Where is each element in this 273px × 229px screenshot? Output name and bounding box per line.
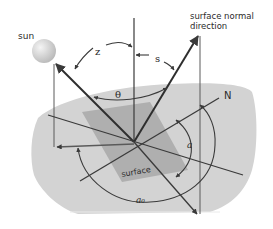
normal-label-line1: surface normal [190,11,254,21]
zenith-angle-arc [75,48,93,69]
normal-label-line2: direction [190,21,227,31]
solar-geometry-diagram: sun surface normal direction z s θ N a a… [0,0,273,229]
sun-icon [32,39,56,63]
zenith-angle-arc-right [106,43,132,47]
zenith-angle-label: z [95,46,100,57]
north-label: N [224,90,231,101]
alpha0-label: a₀ [136,195,145,205]
sun-label: sun [18,31,34,41]
slope-angle-arc-right [164,62,174,70]
slope-angle-label: s [155,53,160,64]
theta-label: θ [115,89,121,100]
alpha-label: a [187,140,192,150]
